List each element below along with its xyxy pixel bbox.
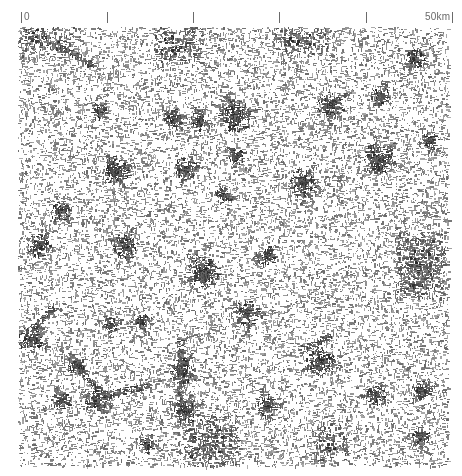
scale-label-start: 0 — [24, 11, 30, 23]
scale-tick-50km — [452, 12, 453, 23]
scale-tick-0km — [21, 12, 22, 23]
scale-tick-20km — [193, 12, 194, 23]
scale-label-end: 50km — [425, 11, 450, 23]
scale-tick-10km — [107, 12, 108, 23]
settlement-map — [0, 0, 462, 476]
scale-tick-40km — [366, 12, 367, 23]
scale-tick-30km — [279, 12, 280, 23]
scale-bar: 0 50km — [0, 0, 462, 26]
